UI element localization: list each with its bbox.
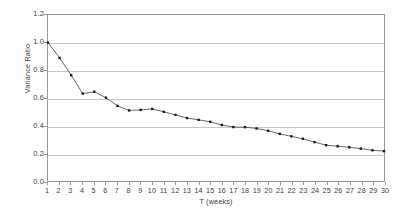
- data-point-marker: [232, 126, 234, 128]
- x-axis-tick-label: 8: [127, 186, 131, 195]
- x-axis-tick-mark: [303, 182, 304, 185]
- x-axis-tick-mark: [164, 182, 165, 185]
- x-axis-tick-mark: [338, 182, 339, 185]
- x-axis-tick-mark: [233, 182, 234, 185]
- x-axis-tick-mark: [117, 182, 118, 185]
- x-axis-tick-mark: [199, 182, 200, 185]
- x-axis-tick-label: 19: [253, 186, 261, 195]
- x-axis-tick-label: 6: [103, 186, 107, 195]
- x-axis-tick-mark: [362, 182, 363, 185]
- x-axis-tick-mark: [210, 182, 211, 185]
- data-point-marker: [336, 145, 338, 147]
- data-point-marker: [383, 150, 385, 152]
- x-axis-tick-label: 24: [311, 186, 319, 195]
- x-axis-tick-mark: [152, 182, 153, 185]
- x-axis-tick-mark: [257, 182, 258, 185]
- data-point-marker: [244, 126, 246, 128]
- x-axis-tick-label: 22: [288, 186, 296, 195]
- x-axis-tick-mark: [129, 182, 130, 185]
- data-point-marker: [302, 138, 304, 140]
- x-axis-title: T (weeks): [47, 197, 385, 206]
- y-axis-tick-label: 0.0: [16, 178, 44, 186]
- x-axis-tick-mark: [292, 182, 293, 185]
- plot-area: [47, 14, 385, 182]
- data-point-marker: [82, 92, 84, 94]
- data-point-marker: [174, 114, 176, 116]
- data-point-marker: [279, 133, 281, 135]
- y-axis-tick-label: 0.8: [16, 66, 44, 74]
- data-point-marker: [128, 109, 130, 111]
- data-point-marker: [290, 135, 292, 137]
- data-point-marker: [360, 147, 362, 149]
- x-axis-tick-label: 4: [80, 186, 84, 195]
- x-axis-tick-mark: [373, 182, 374, 185]
- x-axis-tick-label: 30: [381, 186, 389, 195]
- y-axis-tick-label: 1.2: [16, 10, 44, 18]
- x-axis-tick-label: 13: [183, 186, 191, 195]
- x-axis-tick-mark: [350, 182, 351, 185]
- data-point-marker: [186, 117, 188, 119]
- x-axis-tick-mark: [245, 182, 246, 185]
- x-axis-tick-label: 17: [229, 186, 237, 195]
- x-axis-tick-label: 5: [92, 186, 96, 195]
- x-axis-tick-label: 23: [299, 186, 307, 195]
- x-axis-tick-mark: [175, 182, 176, 185]
- data-point-marker: [116, 105, 118, 107]
- x-axis-tick-mark: [105, 182, 106, 185]
- x-axis-tick-label: 16: [218, 186, 226, 195]
- data-point-marker: [47, 41, 49, 43]
- x-axis-tick-label: 18: [241, 186, 249, 195]
- x-axis-tick-label: 20: [264, 186, 272, 195]
- y-axis-tick-label: 0.4: [16, 122, 44, 130]
- x-axis-tick-label: 9: [138, 186, 142, 195]
- x-axis-tick-label: 3: [68, 186, 72, 195]
- x-axis-tick-mark: [385, 182, 386, 185]
- x-axis-tick-label: 15: [206, 186, 214, 195]
- y-axis-tick-label: 0.6: [16, 94, 44, 102]
- data-point-marker: [93, 91, 95, 93]
- data-point-marker: [58, 57, 60, 59]
- y-axis-tick-label: 0.2: [16, 150, 44, 158]
- data-point-marker: [197, 119, 199, 121]
- data-point-marker: [209, 121, 211, 123]
- x-axis-tick-label: 27: [346, 186, 354, 195]
- x-axis-tick-mark: [268, 182, 269, 185]
- x-axis-tick-mark: [187, 182, 188, 185]
- y-axis-tick-label: 1.0: [16, 38, 44, 46]
- x-axis-tick-mark: [222, 182, 223, 185]
- x-axis-tick-label: 7: [115, 186, 119, 195]
- data-point-marker: [70, 74, 72, 76]
- data-point-marker: [139, 109, 141, 111]
- x-axis-tick-label: 10: [148, 186, 156, 195]
- x-axis-tick-label: 2: [57, 186, 61, 195]
- x-axis-tick-mark: [59, 182, 60, 185]
- data-point-marker: [267, 130, 269, 132]
- data-point-marker: [348, 146, 350, 148]
- data-point-marker: [221, 124, 223, 126]
- x-axis-tick-label: 11: [160, 186, 168, 195]
- data-point-marker: [151, 108, 153, 110]
- x-axis-tick-mark: [327, 182, 328, 185]
- x-axis-tick-label: 26: [334, 186, 342, 195]
- x-axis-tick-label: 12: [171, 186, 179, 195]
- data-point-marker: [313, 141, 315, 143]
- x-axis-tick-label: 25: [323, 186, 331, 195]
- x-axis-tick-mark: [280, 182, 281, 185]
- data-point-marker: [255, 127, 257, 129]
- data-point-marker: [325, 144, 327, 146]
- x-axis-tick-mark: [94, 182, 95, 185]
- x-axis-tick-label: 14: [194, 186, 202, 195]
- variance-ratio-line-chart: Variance Ratio 0.00.20.40.60.81.01.2 123…: [0, 0, 407, 216]
- data-point-marker: [163, 111, 165, 113]
- series-line-variance-ratio: [48, 15, 384, 181]
- x-axis-tick-label: 28: [358, 186, 366, 195]
- x-axis-tick-mark: [140, 182, 141, 185]
- x-axis-tick-mark: [70, 182, 71, 185]
- x-axis-tick-label: 29: [369, 186, 377, 195]
- x-axis-tick-label: 1: [45, 186, 49, 195]
- x-axis-tick-mark: [315, 182, 316, 185]
- data-point-marker: [105, 97, 107, 99]
- x-axis-tick-label: 21: [276, 186, 284, 195]
- data-point-marker: [371, 149, 373, 151]
- x-axis-tick-mark: [82, 182, 83, 185]
